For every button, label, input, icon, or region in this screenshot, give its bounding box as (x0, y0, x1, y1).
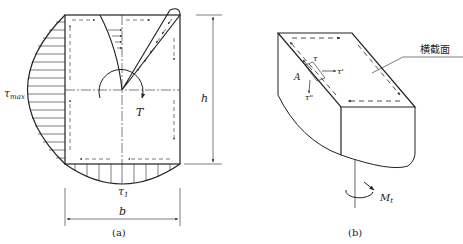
left-side-curve (278, 95, 341, 155)
tau-label: τ (313, 54, 318, 63)
caption-a: (a) (112, 227, 126, 238)
tau-max-label: τmax (4, 87, 25, 101)
moment-arc (346, 190, 373, 198)
point-a-label: A (293, 72, 301, 82)
bottom-stress-distribution (65, 164, 180, 184)
diagram-canvas: τmax τ1 T b h (a) 横截面 (0, 0, 463, 244)
diagonal-distribution (122, 9, 180, 90)
cross-section-leader (372, 57, 463, 73)
left-hatching (28, 22, 65, 158)
tau-double-prime-arrow (309, 80, 310, 93)
width-label: b (119, 205, 126, 218)
tau-double-prime-label: τ" (305, 93, 313, 102)
moment-arrow (364, 182, 374, 190)
caption-b: (b) (348, 227, 362, 238)
bottom-hatching (75, 164, 170, 184)
top-face (278, 33, 415, 107)
moment-label: Mt (379, 192, 393, 205)
tau-prime-label: τ' (337, 67, 344, 76)
figure-b (278, 33, 463, 208)
bottom-curve (341, 150, 415, 168)
height-label: h (201, 92, 208, 105)
element-a (305, 62, 325, 81)
left-stress-distribution (28, 15, 66, 164)
torque-label: T (136, 106, 145, 119)
tau-1-label: τ1 (118, 185, 129, 199)
cross-section-label: 横截面 (420, 43, 450, 55)
